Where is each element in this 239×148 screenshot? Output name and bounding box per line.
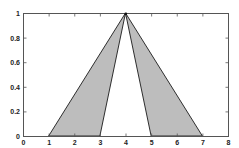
x-tick-label: 3 xyxy=(98,139,102,146)
x-tick-label: 7 xyxy=(201,139,205,146)
y-tick-label: 1 xyxy=(16,10,20,17)
x-tick-label: 1 xyxy=(47,139,51,146)
y-axis-ticks xyxy=(24,14,229,137)
plot-frame xyxy=(24,14,229,137)
series-layer xyxy=(49,13,203,136)
x-tick-label: 2 xyxy=(73,139,77,146)
y-tick-label: 0.8 xyxy=(10,35,20,42)
right-triangle-polygon xyxy=(126,13,203,136)
x-tick-label: 0 xyxy=(22,139,26,146)
y-tick-label: 0 xyxy=(16,133,20,140)
x-tick-label: 4 xyxy=(124,139,128,146)
chart: 012345678 00.20.40.60.81 xyxy=(0,0,239,148)
left-triangle-polygon xyxy=(49,13,126,136)
y-tick-label: 0.4 xyxy=(10,84,20,91)
y-axis-tick-labels: 00.20.40.60.81 xyxy=(10,10,20,140)
y-tick-label: 0.6 xyxy=(10,59,20,66)
y-tick-label: 0.2 xyxy=(10,108,20,115)
x-tick-label: 5 xyxy=(150,139,154,146)
apex-marker-icon xyxy=(124,12,127,15)
x-tick-label: 8 xyxy=(227,139,231,146)
x-axis-tick-labels: 012345678 xyxy=(22,139,231,146)
x-tick-label: 6 xyxy=(175,139,179,146)
annotation-layer xyxy=(124,12,127,15)
x-axis-ticks xyxy=(24,14,229,137)
